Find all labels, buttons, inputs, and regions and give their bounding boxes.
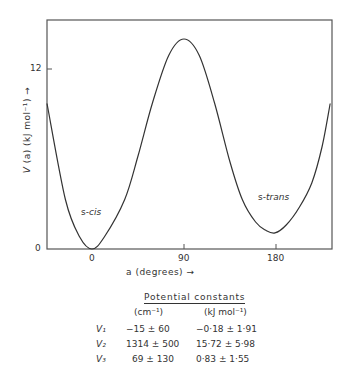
annotation-italic: cis bbox=[89, 207, 101, 217]
y-axis-label-text: (a) (kJ mol⁻¹) → bbox=[22, 87, 32, 167]
x-axis-label: a (degrees) → bbox=[126, 267, 195, 277]
row-value-kj: 15·72 ± 5·98 bbox=[196, 339, 255, 349]
annotation-s-trans: s-trans bbox=[258, 192, 289, 202]
x-tick-label-90: 90 bbox=[178, 253, 189, 263]
row-name: V₁ bbox=[96, 324, 106, 334]
table-row: V₂ 1314 ± 500 15·72 ± 5·98 bbox=[96, 339, 296, 353]
y-tick-label-12: 12 bbox=[30, 63, 41, 73]
annotation-prefix: s- bbox=[81, 207, 89, 217]
row-value-cm: −15 ± 60 bbox=[126, 324, 170, 334]
x-tick-label-180: 180 bbox=[267, 253, 284, 263]
table-column-cm: (cm⁻¹) bbox=[134, 307, 163, 317]
table-column-kj: (kJ mol⁻¹) bbox=[204, 307, 247, 317]
potential-curve bbox=[47, 39, 330, 249]
row-value-kj: 0·83 ± 1·55 bbox=[196, 354, 249, 364]
table-row: V₃ 69 ± 130 0·83 ± 1·55 bbox=[96, 354, 296, 368]
annotation-prefix: s- bbox=[258, 192, 266, 202]
table-row: V₁ −15 ± 60 −0·18 ± 1·91 bbox=[96, 324, 296, 338]
row-name: V₃ bbox=[96, 354, 106, 364]
row-value-kj: −0·18 ± 1·91 bbox=[196, 324, 257, 334]
y-axis-label-symbol: V bbox=[22, 167, 32, 174]
y-tick-label-0: 0 bbox=[35, 243, 41, 253]
annotation-s-cis: s-cis bbox=[81, 207, 101, 217]
row-value-cm: 69 ± 130 bbox=[132, 354, 174, 364]
annotation-italic: trans bbox=[266, 192, 289, 202]
y-axis-label: V (a) (kJ mol⁻¹) → bbox=[22, 75, 32, 185]
x-tick-label-0: 0 bbox=[89, 253, 95, 263]
row-value-cm: 1314 ± 500 bbox=[126, 339, 179, 349]
table-title: Potential constants bbox=[144, 292, 245, 304]
row-name: V₂ bbox=[96, 339, 106, 349]
